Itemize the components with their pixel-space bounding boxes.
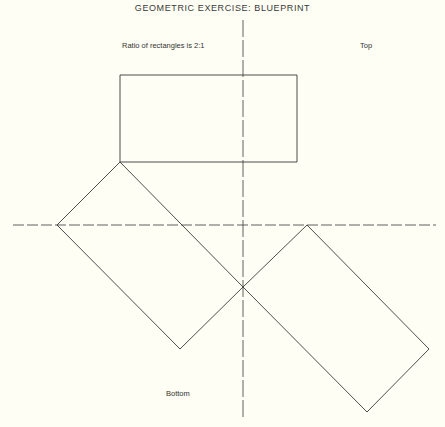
top-rectangle <box>120 75 297 162</box>
blueprint-drawing <box>0 0 445 427</box>
left-rotated-rectangle <box>57 162 243 349</box>
right-rotated-rectangle <box>243 225 429 412</box>
